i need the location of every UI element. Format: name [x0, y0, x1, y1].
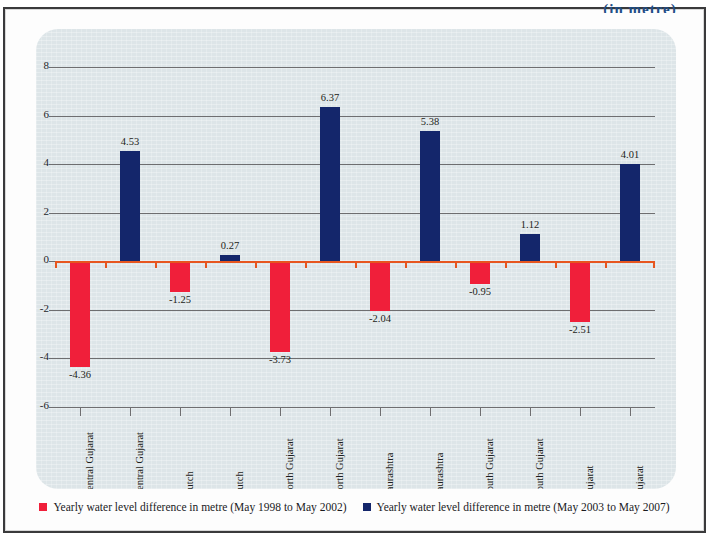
x-axis-tick	[230, 407, 231, 416]
bar-value-label: 5.38	[400, 116, 460, 127]
x-axis-tick	[130, 407, 131, 416]
zero-axis-tick	[305, 261, 307, 268]
bar	[420, 131, 440, 262]
bar-value-label: 0.27	[200, 240, 260, 251]
x-axis-tick	[180, 407, 181, 416]
y-axis-label: -4	[36, 350, 49, 362]
x-axis-category-label: Kutch	[234, 471, 245, 489]
bar	[270, 261, 290, 352]
zero-axis-tick	[105, 261, 107, 268]
page-title-fragment: (in metre)	[565, 1, 712, 13]
gridline	[55, 213, 655, 214]
bar	[220, 255, 240, 262]
zero-axis-tick	[55, 261, 57, 268]
x-axis-line	[55, 407, 655, 408]
y-axis-label: 4	[36, 156, 49, 168]
x-axis-category-label: Saurashtra	[434, 453, 445, 489]
bar	[320, 107, 340, 262]
x-axis-tick	[580, 407, 581, 416]
y-axis-label: 8	[36, 59, 49, 71]
y-axis-tick	[49, 213, 55, 214]
zero-axis-tick	[155, 261, 157, 268]
legend-item: Yearly water level difference in metre (…	[39, 501, 346, 513]
x-axis-tick	[80, 407, 81, 416]
chart-legend: Yearly water level difference in metre (…	[5, 501, 704, 513]
x-axis-category-label: Gujarat	[634, 466, 645, 490]
bar-value-label: -1.25	[150, 294, 210, 305]
bar-value-label: -2.51	[550, 324, 610, 335]
x-axis-tick	[530, 407, 531, 416]
y-axis-tick	[49, 164, 55, 165]
plot-area: 86420-2-4-6 -4.364.53-1.250.27-3.736.37-…	[55, 67, 655, 407]
legend-swatch-icon	[363, 503, 371, 511]
zero-axis-tick	[653, 261, 655, 268]
bar	[520, 234, 540, 261]
bar	[570, 261, 590, 322]
zero-axis-tick	[405, 261, 407, 268]
zero-axis-tick	[455, 261, 457, 268]
bar	[120, 151, 140, 261]
zero-axis-tick	[505, 261, 507, 268]
legend-swatch-icon	[39, 503, 47, 511]
bar-value-label: -3.73	[250, 354, 310, 365]
bar-value-label: -4.36	[50, 369, 110, 380]
x-axis-tick	[630, 407, 631, 416]
y-axis-label: 6	[36, 108, 49, 120]
x-axis-category-label: Central Gujarat	[84, 432, 95, 489]
y-axis-tick	[49, 358, 55, 359]
x-axis-category-label: Kutch	[184, 471, 195, 489]
gridline	[55, 67, 655, 68]
legend-label: Yearly water level difference in metre (…	[377, 501, 670, 513]
zero-axis-tick	[555, 261, 557, 268]
y-axis-tick	[49, 116, 55, 117]
y-axis-tick	[49, 310, 55, 311]
zero-axis-tick	[605, 261, 607, 268]
bar-value-label: -0.95	[450, 286, 510, 297]
y-axis-label: 0	[36, 253, 49, 265]
x-axis-category-label: Gujarat	[584, 466, 595, 490]
zero-axis-tick	[355, 261, 357, 268]
bar	[470, 261, 490, 284]
legend-label: Yearly water level difference in metre (…	[53, 501, 346, 513]
x-axis-tick	[430, 407, 431, 416]
bar-value-label: 1.12	[500, 219, 560, 230]
x-axis-category-label: North Gujarat	[334, 438, 345, 489]
bar	[70, 261, 90, 367]
gridline	[55, 116, 655, 117]
x-axis-category-label: South Gujarat	[534, 438, 545, 489]
bar	[370, 261, 390, 311]
x-axis-tick	[380, 407, 381, 416]
x-axis-tick	[330, 407, 331, 416]
gridline	[55, 310, 655, 311]
bar-value-label: -2.04	[350, 313, 410, 324]
x-axis-tick	[280, 407, 281, 416]
zero-axis-tick	[205, 261, 207, 268]
bar	[620, 164, 640, 261]
gridline	[55, 164, 655, 165]
legend-item: Yearly water level difference in metre (…	[363, 501, 670, 513]
x-axis-category-label: South Gujarat	[484, 438, 495, 489]
bar	[170, 261, 190, 291]
x-axis-category-label: Saurashtra	[384, 453, 395, 489]
x-axis-category-label: North Gujarat	[284, 438, 295, 489]
y-axis-label: -2	[36, 302, 49, 314]
bar-value-label: 4.01	[600, 149, 660, 160]
scanned-page-frame: (in metre) 86420-2-4-6 -4.364.53-1.250.2…	[3, 7, 706, 533]
chart-panel: 86420-2-4-6 -4.364.53-1.250.27-3.736.37-…	[36, 29, 676, 489]
y-axis-label: -6	[36, 399, 49, 411]
y-axis-tick	[49, 67, 55, 68]
x-axis-tick	[480, 407, 481, 416]
x-axis-category-label: Central Gujarat	[134, 432, 145, 489]
y-axis-label: 2	[36, 205, 49, 217]
bar-value-label: 6.37	[300, 92, 360, 103]
zero-axis-tick	[255, 261, 257, 268]
gridline	[55, 358, 655, 359]
bar-value-label: 4.53	[100, 136, 160, 147]
